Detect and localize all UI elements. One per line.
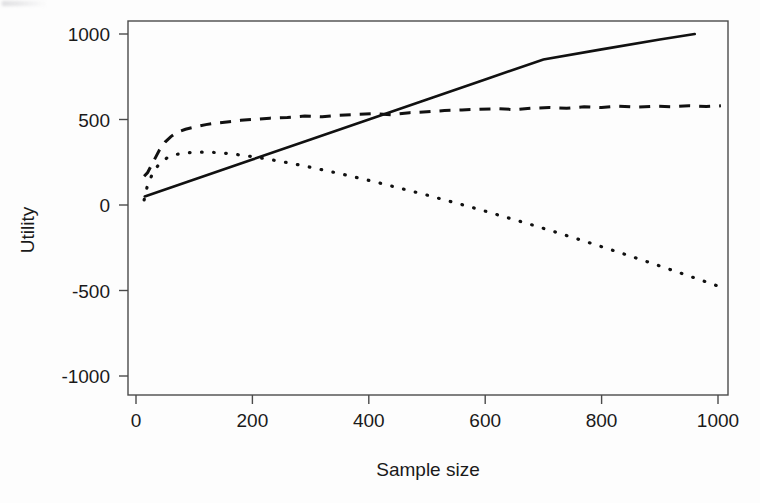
- x-tick-label-400: 400: [353, 410, 385, 431]
- x-axis-ticks: 02004006008001000: [131, 395, 739, 431]
- x-tick-label-800: 800: [586, 410, 618, 431]
- utility-vs-sample-size-chart: 02004006008001000 -1000-50005001000 Samp…: [0, 0, 760, 503]
- y-tick-label--1000: -1000: [61, 366, 110, 387]
- x-axis-title: Sample size: [376, 459, 480, 480]
- y-tick-label-1000: 1000: [68, 24, 110, 45]
- plot-frame: [128, 21, 728, 395]
- y-tick-label-0: 0: [99, 195, 110, 216]
- x-tick-label-600: 600: [469, 410, 501, 431]
- y-tick-label--500: -500: [72, 281, 110, 302]
- series-declining-utility: [144, 152, 721, 287]
- series-linear-utility: [145, 34, 695, 196]
- y-tick-label-500: 500: [78, 110, 110, 131]
- x-tick-label-1000: 1000: [697, 410, 739, 431]
- y-axis-ticks: -1000-50005001000: [61, 24, 128, 387]
- x-tick-label-200: 200: [237, 410, 269, 431]
- x-tick-label-0: 0: [131, 410, 142, 431]
- data-series-layer: [144, 34, 721, 287]
- chart-figure: 02004006008001000 -1000-50005001000 Samp…: [0, 0, 760, 503]
- y-axis-title: Utility: [17, 206, 38, 253]
